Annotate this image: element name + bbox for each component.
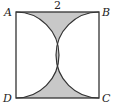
vertex-label-d: D [2,92,12,105]
vertex-label-b: B [101,6,110,19]
shaded-region [16,12,99,98]
vertex-label-c: C [102,92,111,105]
square-diagram: 2 A B C D [0,0,113,109]
side-length-label: 2 [54,0,61,12]
vertex-label-a: A [3,6,12,19]
